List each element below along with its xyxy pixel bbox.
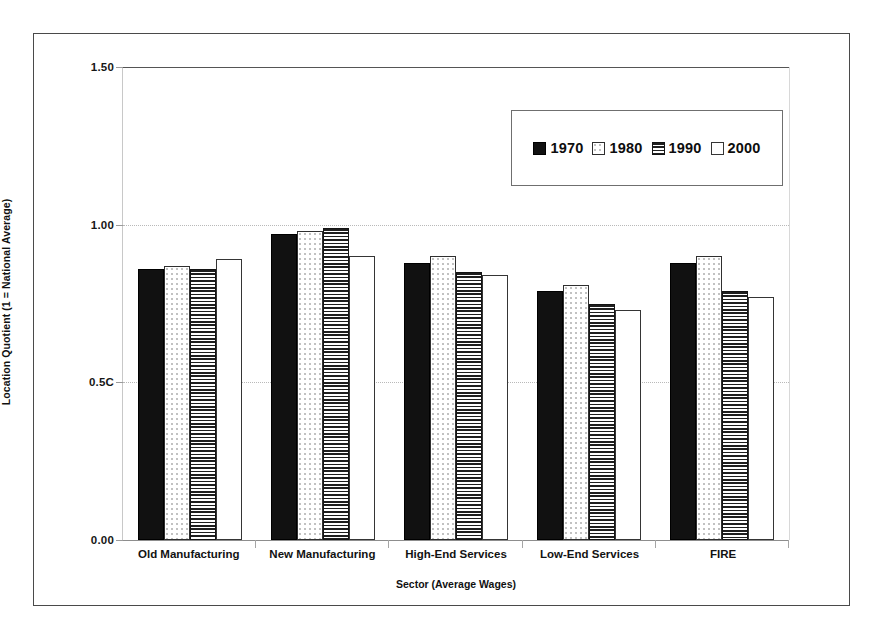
bar-group-new-manufacturing <box>256 67 389 540</box>
bar-new-manufacturing-2000[interactable] <box>349 256 375 540</box>
y-tick-label-150: 1.50 <box>91 61 114 73</box>
group-separator-tick <box>788 540 789 548</box>
chart-legend: 1970 1980 1990 2000 <box>511 110 783 186</box>
x-axis-label-new-manufacturing: New Manufacturing <box>256 548 390 570</box>
bar-low-end-services-2000[interactable] <box>615 310 641 540</box>
bar-old-manufacturing-2000[interactable] <box>216 259 242 540</box>
legend-swatch-1980-icon <box>592 142 605 155</box>
y-tick-mark-150 <box>116 67 123 68</box>
legend-swatch-2000-icon <box>711 142 724 155</box>
y-tick-mark-050 <box>116 382 123 383</box>
bar-group-old-manufacturing <box>123 67 256 540</box>
legend-item-2000[interactable]: 2000 <box>711 140 761 156</box>
group-separator-tick <box>522 540 523 548</box>
bar-fire-1990[interactable] <box>722 291 748 540</box>
y-axis-title: Location Quotient (1 = National Average) <box>0 132 12 472</box>
legend-item-1990[interactable]: 1990 <box>652 140 702 156</box>
bar-high-end-services-2000[interactable] <box>482 275 508 540</box>
y-tick-label-050: 0.5C <box>89 376 114 388</box>
legend-label-1990: 1990 <box>669 140 702 156</box>
gridline-000-baseline <box>123 540 789 541</box>
group-separator-tick <box>255 540 256 548</box>
bar-old-manufacturing-1970[interactable] <box>138 269 164 540</box>
x-axis-category-labels: Old Manufacturing New Manufacturing High… <box>122 548 790 570</box>
bar-new-manufacturing-1970[interactable] <box>271 234 297 540</box>
bar-fire-1980[interactable] <box>696 256 722 540</box>
bar-old-manufacturing-1980[interactable] <box>164 266 190 540</box>
bar-fire-1970[interactable] <box>670 263 696 540</box>
legend-swatch-1990-icon <box>652 142 665 155</box>
y-tick-mark-000 <box>116 540 123 541</box>
x-axis-label-low-end-services: Low-End Services <box>523 548 657 570</box>
legend-label-2000: 2000 <box>728 140 761 156</box>
bar-low-end-services-1970[interactable] <box>537 291 563 540</box>
bar-low-end-services-1990[interactable] <box>589 304 615 541</box>
group-separator-tick <box>655 540 656 548</box>
legend-item-1970[interactable]: 1970 <box>533 140 583 156</box>
legend-item-1980[interactable]: 1980 <box>592 140 642 156</box>
bar-low-end-services-1980[interactable] <box>563 285 589 540</box>
y-tick-label-000: 0.00 <box>91 534 114 546</box>
y-axis-tick-labels: 1.50 1.00 0.5C 0.00 <box>66 67 114 540</box>
bar-group-high-end-services <box>389 67 522 540</box>
y-tick-label-100: 1.00 <box>91 219 114 231</box>
legend-row: 1970 1980 1990 2000 <box>533 140 760 156</box>
bar-new-manufacturing-1990[interactable] <box>323 228 349 540</box>
chart-figure: Location Quotient (1 = National Average)… <box>0 0 873 635</box>
bar-high-end-services-1980[interactable] <box>430 256 456 540</box>
bar-new-manufacturing-1980[interactable] <box>297 231 323 540</box>
group-separator-tick <box>388 540 389 548</box>
bar-old-manufacturing-1990[interactable] <box>190 269 216 540</box>
legend-label-1980: 1980 <box>609 140 642 156</box>
x-axis-title: Sector (Average Wages) <box>122 578 790 590</box>
x-axis-label-old-manufacturing: Old Manufacturing <box>122 548 256 570</box>
y-tick-mark-100 <box>116 225 123 226</box>
bar-fire-2000[interactable] <box>748 297 774 540</box>
x-axis-label-high-end-services: High-End Services <box>389 548 523 570</box>
bar-high-end-services-1970[interactable] <box>404 263 430 540</box>
legend-label-1970: 1970 <box>550 140 583 156</box>
legend-swatch-1970-icon <box>533 142 546 155</box>
x-axis-label-fire: FIRE <box>656 548 790 570</box>
plot-area: 1970 1980 1990 2000 <box>122 67 790 540</box>
bar-high-end-services-1990[interactable] <box>456 272 482 540</box>
